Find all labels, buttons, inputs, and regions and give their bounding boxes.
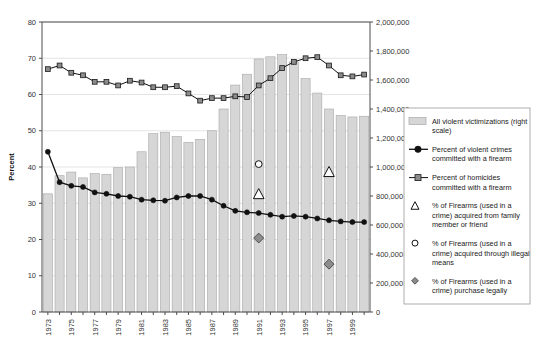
homicide-marker [256, 83, 261, 88]
homicide-marker [198, 98, 203, 103]
bar [78, 178, 87, 312]
homicide-marker [186, 91, 191, 96]
firearm-marker [327, 218, 332, 223]
illegal-source-marker [255, 161, 262, 168]
homicide-marker [209, 96, 214, 101]
y-tick-label-right: 200,000 [376, 279, 403, 288]
homicide-marker [315, 55, 320, 60]
firearm-marker [69, 183, 74, 188]
y-tick-label-right: 800,000 [376, 192, 403, 201]
firearm-marker [81, 184, 86, 189]
firearm-marker [315, 216, 320, 221]
y-tick-label-left: 30 [28, 199, 36, 208]
legend-item-label: Percent of violent crimes [432, 145, 512, 154]
homicide-marker [291, 59, 296, 64]
bar [348, 117, 357, 312]
firearm-marker [127, 194, 132, 199]
bar [278, 55, 287, 312]
bar [160, 132, 169, 312]
y-tick-label-right: 1,600,000 [376, 76, 409, 85]
y-tick-label-right: 1,800,000 [376, 47, 409, 56]
homicide-marker [327, 63, 332, 68]
firearm-marker [268, 212, 273, 217]
homicide-marker [245, 95, 250, 100]
homicide-marker [280, 66, 285, 71]
y-tick-label-left: 40 [28, 163, 36, 172]
bar [313, 93, 322, 312]
bar [125, 167, 134, 312]
legend-marker-firearm [415, 146, 421, 152]
firearm-marker [291, 213, 296, 218]
homicide-marker [151, 85, 156, 90]
firearm-marker [139, 197, 144, 202]
bar [266, 57, 275, 312]
x-tick-label: 1979 [114, 319, 123, 336]
bar [231, 85, 240, 312]
bar [336, 116, 345, 312]
legend-item-label: committed with a firearm [432, 154, 511, 163]
legend-item-label: Percent of homicides [432, 173, 500, 182]
bar [137, 152, 146, 312]
bar [172, 137, 181, 312]
y-tick-label-left: 80 [28, 18, 36, 27]
legend-item-label: crime) acquired from family [432, 211, 520, 220]
combination-chart: 010203040506070800200,000400,000600,0008… [0, 0, 533, 355]
y-tick-label-left: 70 [28, 54, 36, 63]
x-tick-label: 1997 [325, 319, 334, 336]
homicide-marker [268, 76, 273, 81]
legend-item-label: means [432, 258, 454, 267]
homicide-marker [163, 85, 168, 90]
firearm-marker [338, 219, 343, 224]
firearm-marker [92, 190, 97, 195]
x-tick-label: 1975 [67, 319, 76, 336]
firearm-marker [186, 194, 191, 199]
y-tick-label-right: 600,000 [376, 221, 403, 230]
bar [114, 168, 123, 312]
homicide-marker [233, 94, 238, 99]
firearm-marker [256, 211, 261, 216]
x-tick-label: 1985 [184, 319, 193, 336]
homicide-marker [303, 56, 308, 61]
x-tick-label: 1989 [231, 319, 240, 336]
firearm-marker [280, 214, 285, 219]
bars-group [43, 55, 368, 312]
bar [254, 59, 263, 312]
legend-item-label: All violent victimizations (right [432, 117, 527, 126]
x-tick-label: 1973 [44, 319, 53, 336]
bar [67, 172, 76, 312]
bar [43, 194, 52, 312]
firearm-marker [116, 194, 121, 199]
y-tick-label-right: 2,000,000 [376, 18, 409, 27]
legend-item-label: scale) [432, 126, 451, 135]
homicide-marker [92, 79, 97, 84]
legend-swatch-bars [409, 118, 426, 125]
firearm-marker [362, 220, 367, 225]
homicide-marker [338, 73, 343, 78]
homicide-marker [116, 83, 121, 88]
x-tick-label: 1993 [278, 319, 287, 336]
firearm-marker [303, 214, 308, 219]
legend-item-label: % of Firearms (used in a [432, 201, 512, 210]
firearm-marker [57, 180, 62, 185]
firearm-marker [233, 208, 238, 213]
bar [289, 62, 298, 312]
chart-container: 010203040506070800200,000400,000600,0008… [0, 0, 533, 355]
bar [360, 116, 369, 312]
homicide-marker [221, 96, 226, 101]
legend-item-label: % of Firearms (used in a [432, 277, 512, 286]
x-tick-label: 1981 [137, 319, 146, 336]
homicide-marker [127, 78, 132, 83]
firearm-marker [151, 198, 156, 203]
homicide-marker [362, 72, 367, 77]
firearm-marker [209, 197, 214, 202]
legend-item-label: crime) acquired through illegal [432, 249, 530, 258]
firearm-marker [350, 220, 355, 225]
homicide-marker [57, 63, 62, 68]
homicide-marker [350, 74, 355, 79]
homicide-marker [81, 73, 86, 78]
firearm-marker [221, 203, 226, 208]
y-tick-label-left: 60 [28, 90, 36, 99]
bar [55, 176, 64, 312]
firearm-marker [163, 198, 168, 203]
homicide-marker [45, 67, 50, 72]
